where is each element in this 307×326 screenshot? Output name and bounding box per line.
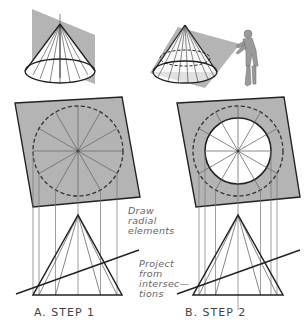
cutting-plane-line-b <box>177 250 300 294</box>
draw-radial-elements-note: Draw radial elements <box>128 206 175 236</box>
panel-a-plane <box>15 97 140 207</box>
cone-vertical-plane-illustration <box>25 9 95 84</box>
note-line: elements <box>128 226 175 236</box>
caption-step-2: B. STEP 2 <box>185 306 246 319</box>
cone-elevation-a <box>16 215 139 295</box>
observer-figure-icon <box>236 30 258 86</box>
cutting-plane-line-a <box>16 250 139 294</box>
cone-inclined-plane-illustration <box>150 25 258 88</box>
caption-step-1: A. STEP 1 <box>34 306 95 319</box>
panel-b-plane <box>177 97 300 207</box>
note-line: tions <box>139 289 189 299</box>
cone-elevation-b <box>177 215 300 295</box>
project-from-intersections-note: Project from intersec— tions <box>139 259 189 299</box>
